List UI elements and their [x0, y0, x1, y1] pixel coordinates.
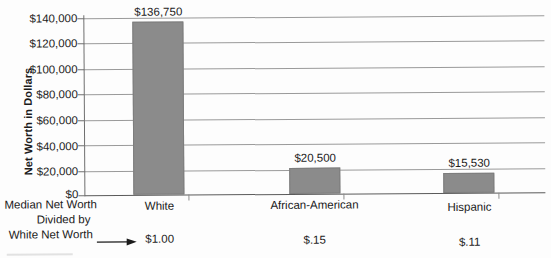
- y-tick-label: $20,000: [4, 166, 78, 177]
- plot-area: $136,750 $20,500 $15,530: [83, 12, 545, 195]
- bar-african-american: [289, 168, 340, 194]
- y-tick-label: $80,000: [4, 89, 78, 100]
- y-tick-mark: [77, 43, 84, 44]
- category-label-hispanic: Hispanic: [404, 200, 534, 213]
- bar-value-hispanic: $15,530: [429, 157, 509, 169]
- y-tick-mark: [78, 120, 85, 121]
- category-label-african-american: African-American: [249, 198, 379, 211]
- net-worth-bar-chart: Net Worth in Dollars $140,000 $120,000 $…: [0, 0, 551, 258]
- bar-hispanic: [443, 173, 494, 193]
- annotation-line-2: Divided by: [3, 212, 131, 228]
- y-tick-label: $100,000: [4, 64, 78, 75]
- chart-skew-layer: Net Worth in Dollars $140,000 $120,000 $…: [0, 0, 551, 258]
- bar-value-african-american: $20,500: [275, 152, 355, 164]
- x-tick-mark: [498, 193, 499, 199]
- y-tick-mark: [78, 171, 85, 172]
- y-tick-label: $40,000: [4, 141, 78, 152]
- right-arrow-icon: [97, 233, 139, 243]
- scan-artifact: [7, 253, 73, 255]
- y-tick-label: $140,000: [3, 13, 77, 24]
- y-tick-mark: [78, 94, 85, 95]
- y-tick-mark: [78, 195, 85, 196]
- ratio-label-hispanic: $.11: [405, 235, 535, 248]
- ratio-label-african-american: $.15: [250, 233, 380, 246]
- y-tick-label: $120,000: [3, 38, 77, 49]
- y-tick-label: $60,000: [4, 115, 78, 126]
- bar-value-white: $136,750: [118, 5, 198, 17]
- bar-white: [132, 22, 184, 195]
- annotation-line-1: Median Net Worth: [2, 197, 130, 213]
- y-tick-mark: [78, 69, 85, 70]
- y-tick-mark: [77, 18, 84, 19]
- y-tick-mark: [78, 145, 85, 146]
